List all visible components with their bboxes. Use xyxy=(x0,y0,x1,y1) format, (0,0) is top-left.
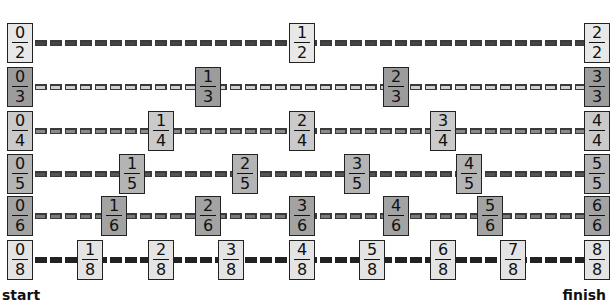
fraction-box-8-8: 88 xyxy=(584,240,610,280)
fraction-box-2-4: 24 xyxy=(289,111,315,151)
fraction-box-0-2: 02 xyxy=(7,23,33,63)
fraction-box-3-6: 36 xyxy=(289,196,315,236)
numerator: 2 xyxy=(240,156,250,172)
numerator: 4 xyxy=(592,113,602,129)
number-line-row-6ths: 06162636465666 xyxy=(0,194,610,238)
numerator: 0 xyxy=(15,113,25,129)
numerator: 5 xyxy=(485,198,495,214)
numerator: 1 xyxy=(85,242,95,258)
numerator: 6 xyxy=(592,198,602,214)
fraction-box-2-5: 25 xyxy=(232,154,258,194)
numerator: 4 xyxy=(391,198,401,214)
numerator: 0 xyxy=(15,69,25,85)
numerator: 0 xyxy=(15,25,25,41)
numerator: 1 xyxy=(127,156,137,172)
numerator: 2 xyxy=(391,69,401,85)
start-label: start xyxy=(2,287,40,303)
fraction-box-7-8: 78 xyxy=(500,240,526,280)
numerator: 0 xyxy=(15,242,25,258)
denominator: 8 xyxy=(367,262,377,278)
denominator: 8 xyxy=(592,262,602,278)
denominator: 8 xyxy=(85,262,95,278)
fraction-box-6-8: 68 xyxy=(430,240,456,280)
numerator: 7 xyxy=(508,242,518,258)
denominator: 3 xyxy=(203,89,213,105)
number-line-row-8ths: 081828384858687888 xyxy=(0,238,610,282)
fraction-box-3-8: 38 xyxy=(218,240,244,280)
number-line-row-2ths: 021222 xyxy=(0,21,610,65)
denominator: 6 xyxy=(391,218,401,234)
fraction-box-0-3: 03 xyxy=(7,67,33,107)
fraction-box-3-3: 33 xyxy=(584,67,610,107)
fraction-box-1-2: 12 xyxy=(289,23,315,63)
fraction-box-1-6: 16 xyxy=(101,196,127,236)
denominator: 4 xyxy=(156,133,166,149)
denominator: 3 xyxy=(592,89,602,105)
denominator: 3 xyxy=(15,89,25,105)
numerator: 0 xyxy=(15,198,25,214)
fraction-box-0-4: 04 xyxy=(7,111,33,151)
numerator: 2 xyxy=(592,25,602,41)
fraction-box-0-6: 06 xyxy=(7,196,33,236)
numerator: 4 xyxy=(464,156,474,172)
denominator: 5 xyxy=(464,176,474,192)
numerator: 5 xyxy=(592,156,602,172)
fraction-box-5-8: 58 xyxy=(359,240,385,280)
fraction-box-1-8: 18 xyxy=(77,240,103,280)
fraction-box-0-8: 08 xyxy=(7,240,33,280)
denominator: 5 xyxy=(240,176,250,192)
denominator: 5 xyxy=(352,176,362,192)
number-line-row-4ths: 0414243444 xyxy=(0,109,610,153)
denominator: 5 xyxy=(592,176,602,192)
numerator: 0 xyxy=(15,156,25,172)
fraction-box-3-5: 35 xyxy=(344,154,370,194)
denominator: 8 xyxy=(156,262,166,278)
numerator: 1 xyxy=(109,198,119,214)
numerator: 5 xyxy=(367,242,377,258)
denominator: 8 xyxy=(438,262,448,278)
numerator: 2 xyxy=(203,198,213,214)
fraction-box-6-6: 66 xyxy=(584,196,610,236)
dashed-track xyxy=(20,171,596,177)
denominator: 8 xyxy=(226,262,236,278)
dashed-track xyxy=(20,84,596,90)
fraction-box-4-5: 45 xyxy=(456,154,482,194)
numerator: 3 xyxy=(297,198,307,214)
number-line-row-5ths: 051525354555 xyxy=(0,152,610,196)
fraction-box-2-8: 28 xyxy=(148,240,174,280)
fraction-box-0-5: 05 xyxy=(7,154,33,194)
denominator: 6 xyxy=(15,218,25,234)
fraction-box-1-5: 15 xyxy=(119,154,145,194)
numerator: 2 xyxy=(156,242,166,258)
number-line-row-3ths: 03132333 xyxy=(0,65,610,109)
numerator: 2 xyxy=(297,113,307,129)
denominator: 4 xyxy=(592,133,602,149)
numerator: 3 xyxy=(352,156,362,172)
fraction-box-5-6: 56 xyxy=(477,196,503,236)
fraction-box-1-3: 13 xyxy=(195,67,221,107)
numerator: 1 xyxy=(297,25,307,41)
denominator: 6 xyxy=(109,218,119,234)
denominator: 5 xyxy=(127,176,137,192)
denominator: 6 xyxy=(592,218,602,234)
denominator: 4 xyxy=(438,133,448,149)
denominator: 4 xyxy=(15,133,25,149)
denominator: 6 xyxy=(485,218,495,234)
fraction-box-4-4: 44 xyxy=(584,111,610,151)
finish-label: finish xyxy=(563,287,606,303)
denominator: 8 xyxy=(297,262,307,278)
numerator: 3 xyxy=(592,69,602,85)
denominator: 3 xyxy=(391,89,401,105)
numerator: 1 xyxy=(156,113,166,129)
denominator: 2 xyxy=(297,45,307,61)
numerator: 3 xyxy=(226,242,236,258)
denominator: 8 xyxy=(15,262,25,278)
denominator: 2 xyxy=(15,45,25,61)
fraction-box-2-6: 26 xyxy=(195,196,221,236)
denominator: 4 xyxy=(297,133,307,149)
fraction-box-3-4: 34 xyxy=(430,111,456,151)
denominator: 8 xyxy=(508,262,518,278)
numerator: 8 xyxy=(592,242,602,258)
denominator: 5 xyxy=(15,176,25,192)
fraction-box-1-4: 14 xyxy=(148,111,174,151)
